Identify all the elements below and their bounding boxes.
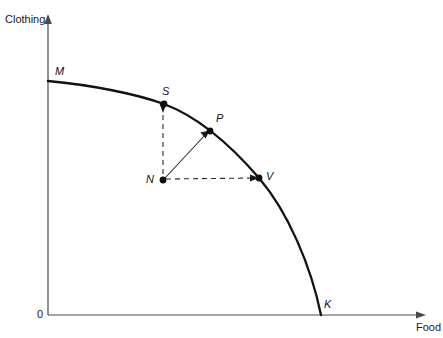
origin-label: 0 (37, 309, 43, 320)
point-label-p: P (216, 113, 223, 124)
x-axis-title: Food (416, 322, 441, 333)
connector-s-to-n (160, 104, 167, 178)
point-label-s: S (162, 86, 169, 97)
x-axis-arrowhead (416, 311, 426, 318)
connector-n-to-p (165, 131, 210, 179)
point-marker-v[interactable] (256, 175, 263, 182)
dashed-line-n-v (166, 178, 255, 179)
point-label-k: K (324, 299, 331, 310)
ppf-figure: Clothing Food 0 M S P N V K (0, 0, 443, 338)
point-label-v: V (266, 171, 273, 182)
solid-line-n-p (165, 134, 206, 178)
connector-n-to-v (166, 175, 259, 182)
y-axis-title: Clothing (5, 14, 45, 25)
point-marker-s[interactable] (161, 101, 168, 108)
point-marker-p[interactable] (207, 128, 214, 135)
point-label-m: M (55, 66, 64, 77)
frontier-group (48, 81, 321, 315)
ppf-diagram-canvas (0, 0, 443, 338)
point-label-n: N (146, 174, 154, 185)
point-marker-n[interactable] (160, 177, 167, 184)
point-markers-group (160, 101, 263, 184)
axes-group (44, 14, 426, 319)
production-possibility-frontier-curve (48, 81, 321, 315)
